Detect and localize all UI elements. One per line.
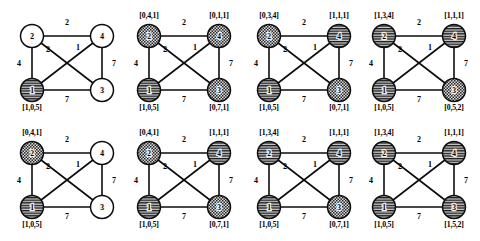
- node-number-label: 1: [267, 203, 271, 212]
- graph-panel: 2421772[1,3,4]4[1,1,1]1[1,0,5]3[0,5,2]: [358, 2, 478, 122]
- edge-weight-label: 7: [302, 95, 306, 104]
- node-state-label: [1,1,1]: [329, 128, 349, 137]
- graph-panel: 2421772[0,4,1]4[0,1,1]1[1,0,5]3[0,7,1]: [123, 2, 243, 122]
- graph-canvas: 242177241[1,0,5]3: [6, 2, 126, 122]
- graph-figure: 242177241[1,0,5]32421772[0,4,1]4[0,1,1]1…: [0, 0, 480, 241]
- node-number-label: 4: [217, 149, 221, 158]
- node-number-label: 4: [100, 149, 104, 158]
- edge-weight-label: 7: [464, 176, 468, 185]
- edge-weight-label: 7: [417, 95, 421, 104]
- node-number-label: 4: [452, 32, 456, 41]
- graph-canvas: 2421772[0,4,1]4[0,1,1]1[1,0,5]3[0,7,1]: [123, 2, 243, 122]
- edge-weight-label: 2: [417, 18, 421, 27]
- edge-weight-label: 2: [302, 18, 306, 27]
- node-number-label: 3: [217, 203, 221, 212]
- edge-weight-label: 7: [349, 176, 353, 185]
- graph-panel: 2421772[0,3,4]4[1,1,1]1[1,0,5]3[0,7,1]: [243, 2, 363, 122]
- node-number-label: 3: [337, 86, 341, 95]
- edge-weight-label: 2: [65, 18, 69, 27]
- node-state-label: [1,1,1]: [329, 11, 349, 20]
- node-number-label: 2: [30, 32, 34, 41]
- edge-weight-label: 4: [134, 59, 138, 68]
- edge-weight-label: 4: [254, 176, 258, 185]
- edge-weight-label: 2: [182, 18, 186, 27]
- node-number-label: 2: [267, 149, 271, 158]
- edge-weight-label: 4: [17, 59, 21, 68]
- edge-weight-label: 1: [428, 160, 432, 169]
- edge-weight-label: 7: [302, 212, 306, 221]
- graph-panel: 2421772[0,4,1]4[1,1,1]1[1,0,5]3[0,7,1]: [123, 119, 243, 239]
- node-state-label: [1,3,4]: [374, 11, 394, 20]
- edge-weight-label: 7: [182, 212, 186, 221]
- node-state-label: [1,0,5]: [374, 220, 394, 229]
- node-number-label: 2: [382, 32, 386, 41]
- node-number-label: 2: [147, 149, 151, 158]
- node-number-label: 3: [452, 86, 456, 95]
- graph-panel: 2421772[1,3,4]4[1,1,1]1[1,0,5]3[0,7,1]: [243, 119, 363, 239]
- node-number-label: 3: [100, 203, 104, 212]
- node-state-label: [1,0,5]: [22, 103, 42, 112]
- edge-weight-label: 7: [417, 212, 421, 221]
- edge-weight-label: 2: [417, 135, 421, 144]
- edge-weight-label: 7: [182, 95, 186, 104]
- node-number-label: 1: [30, 203, 34, 212]
- node-state-label: [1,0,5]: [139, 220, 159, 229]
- edge-weight-label: 2: [283, 45, 287, 54]
- node-number-label: 2: [267, 32, 271, 41]
- node-state-label: [1,0,5]: [259, 220, 279, 229]
- node-state-label: [0,7,1]: [329, 220, 349, 229]
- node-number-label: 4: [337, 32, 341, 41]
- node-state-label: [1,1,1]: [444, 11, 464, 20]
- edge-weight-label: 1: [76, 160, 80, 169]
- edge-weight-label: 7: [229, 176, 233, 185]
- graph-panel: 2421772[0,4,1]41[1,0,5]3: [6, 119, 126, 239]
- node-number-label: 2: [147, 32, 151, 41]
- node-state-label: [1,3,4]: [374, 128, 394, 137]
- edge-weight-label: 2: [302, 135, 306, 144]
- node-number-label: 1: [147, 203, 151, 212]
- node-number-label: 3: [337, 203, 341, 212]
- graph-canvas: 2421772[1,3,4]4[1,1,1]1[1,0,5]3[1,5,2]: [358, 119, 478, 239]
- edge-weight-label: 2: [398, 45, 402, 54]
- node-number-label: 1: [30, 86, 34, 95]
- edge-weight-label: 7: [112, 59, 116, 68]
- node-state-label: [0,3,4]: [259, 11, 279, 20]
- edge-weight-label: 4: [369, 176, 373, 185]
- edge-weight-label: 4: [254, 59, 258, 68]
- node-state-label: [0,7,1]: [329, 103, 349, 112]
- edge-weight-label: 7: [65, 212, 69, 221]
- node-state-label: [1,3,4]: [259, 128, 279, 137]
- edge-weight-label: 4: [134, 176, 138, 185]
- edge-weight-label: 2: [65, 135, 69, 144]
- graph-canvas: 2421772[1,3,4]4[1,1,1]1[1,0,5]3[0,7,1]: [243, 119, 363, 239]
- edge-weight-label: 1: [428, 43, 432, 52]
- node-number-label: 4: [100, 32, 104, 41]
- graph-canvas: 2421772[0,4,1]41[1,0,5]3: [6, 119, 126, 239]
- edge-weight-label: 1: [193, 160, 197, 169]
- edge-weight-label: 1: [313, 43, 317, 52]
- node-number-label: 1: [147, 86, 151, 95]
- node-number-label: 1: [267, 86, 271, 95]
- graph-canvas: 2421772[0,4,1]4[1,1,1]1[1,0,5]3[0,7,1]: [123, 119, 243, 239]
- edge-weight-label: 2: [398, 162, 402, 171]
- edge-weight-label: 7: [65, 95, 69, 104]
- node-state-label: [1,0,5]: [139, 103, 159, 112]
- edge-weight-label: 2: [163, 162, 167, 171]
- edge-weight-label: 2: [46, 45, 50, 54]
- node-state-label: [0,7,1]: [209, 103, 229, 112]
- edge-weight-label: 7: [112, 176, 116, 185]
- node-number-label: 3: [217, 86, 221, 95]
- node-number-label: 4: [337, 149, 341, 158]
- node-state-label: [0,4,1]: [139, 11, 159, 20]
- graph-canvas: 2421772[0,3,4]4[1,1,1]1[1,0,5]3[0,7,1]: [243, 2, 363, 122]
- node-state-label: [0,4,1]: [22, 128, 42, 137]
- edge-weight-label: 4: [369, 59, 373, 68]
- node-number-label: 2: [382, 149, 386, 158]
- edge-weight-label: 2: [182, 135, 186, 144]
- node-number-label: 4: [452, 149, 456, 158]
- node-state-label: [0,1,1]: [209, 11, 229, 20]
- graph-panel: 242177241[1,0,5]3: [6, 2, 126, 122]
- edge-weight-label: 2: [163, 45, 167, 54]
- node-number-label: 1: [382, 203, 386, 212]
- edge-weight-label: 7: [349, 59, 353, 68]
